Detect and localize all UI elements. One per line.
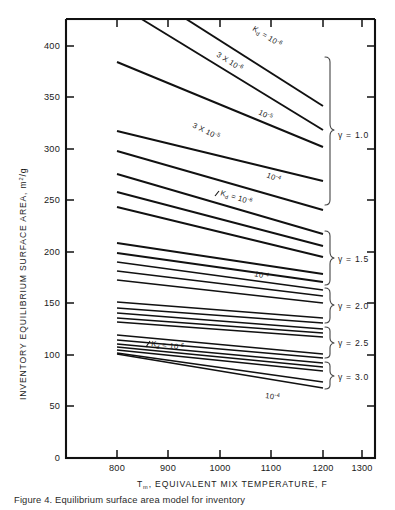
y-tick-50: 50 <box>49 401 60 411</box>
x-axis-ticks <box>117 19 362 458</box>
curve-g15-kd1e-4 <box>117 253 323 282</box>
curve-g25-kd1e-5 <box>117 322 323 337</box>
curve-g1-kd3e-5 <box>117 131 323 181</box>
label-10-4-upper: 10-4 <box>265 170 282 185</box>
y-tick-100: 100 <box>44 350 60 360</box>
plot-frame <box>66 19 375 458</box>
y-title-main: INVENTORY EQUILIBRIUM SURFACE AREA, m <box>18 180 28 400</box>
x-tick-1300: 1300 <box>351 463 372 473</box>
brace-gamma-2-5 <box>325 327 334 358</box>
curve-annotations: Kd = 10-6 3 X 10-6 10-5 3 X 10-5 10-4 Kd… <box>146 23 284 402</box>
x-tick-1000: 1000 <box>209 463 230 473</box>
curve-g2-kd1e-6 <box>117 262 323 290</box>
group-label-gamma-1-0: γ = 1.0 <box>338 130 369 140</box>
chart-plot: 0 50 100 150 200 250 300 350 400 <box>0 0 395 510</box>
y-tick-150: 150 <box>44 298 60 308</box>
x-tick-800: 800 <box>109 463 125 473</box>
x-tick-1100: 1100 <box>261 463 282 473</box>
y-axis-title: INVENTORY EQUILIBRIUM SURFACE AREA, m2/g <box>18 168 28 400</box>
x-tick-900: 900 <box>160 463 176 473</box>
curve-g15-kd1e-6 <box>117 174 323 234</box>
brace-gamma-2-0 <box>325 288 334 323</box>
curve-group-gamma-2-5 <box>117 313 323 358</box>
y-tick-200: 200 <box>44 247 60 257</box>
curve-group-gamma-2-0 <box>117 262 323 323</box>
curve-g15-kd1e-5 <box>117 207 323 257</box>
y-tick-350: 350 <box>44 92 60 102</box>
y-tick-300: 300 <box>44 144 60 154</box>
leader-kd-mid <box>215 191 219 196</box>
curve-group-gamma-1-0 <box>117 0 323 210</box>
y-axis-tick-labels: 0 50 100 150 200 250 300 350 400 <box>44 41 60 463</box>
y-tick-250: 250 <box>44 195 60 205</box>
y-title-tail: /g <box>18 168 28 177</box>
x-title-rest: , EQUIVALENT MIX TEMPERATURE, F <box>149 479 328 489</box>
group-label-gamma-3-0: γ = 3.0 <box>338 372 369 382</box>
y-tick-400: 400 <box>44 41 60 51</box>
top-clip-mask <box>0 0 395 19</box>
brace-gamma-3-0 <box>325 362 334 389</box>
y-axis-ticks <box>66 46 375 458</box>
y-tick-0: 0 <box>55 453 60 463</box>
figure-container: 0 50 100 150 200 250 300 350 400 <box>0 0 395 510</box>
svg-text:Tm, EQUIVALENT MIX TEMPERATURE: Tm, EQUIVALENT MIX TEMPERATURE, F <box>137 479 328 490</box>
x-axis-tick-labels: 800 900 1000 1100 1200 1300 <box>109 463 373 473</box>
label-10-4-mid: 10-4 <box>254 268 271 281</box>
curve-g1-kd1e-4 <box>117 151 323 210</box>
label-3x10-5: 3 X 10-5 <box>191 120 222 142</box>
curve-g3-kd1e-4 <box>117 354 323 388</box>
label-kd-top: Kd = 10-6 <box>250 23 284 50</box>
group-label-gamma-2-5: γ = 2.5 <box>338 338 369 348</box>
curve-g15-kd3e-6 <box>117 192 323 246</box>
x-tick-1200: 1200 <box>312 463 333 473</box>
brace-gamma-1-0 <box>325 57 334 205</box>
figure-caption: Figure 4. Equilibrium surface area model… <box>14 494 384 506</box>
group-label-gamma-2-0: γ = 2.0 <box>338 301 369 311</box>
x-axis-title: Tm, EQUIVALENT MIX TEMPERATURE, F <box>137 479 328 490</box>
brace-gamma-1-5 <box>325 231 334 285</box>
label-10-4-low: 10-4 <box>265 390 281 402</box>
curve-g25-kd1e-4 <box>117 340 323 358</box>
group-label-gamma-1-5: γ = 1.5 <box>338 254 369 264</box>
svg-text:INVENTORY EQUILIBRIUM SURFACE: INVENTORY EQUILIBRIUM SURFACE AREA, m2/g <box>18 168 28 400</box>
group-brackets: γ = 1.0 γ = 1.5 γ = 2.0 γ = 2.5 γ = 3.0 <box>325 57 369 389</box>
curve-g15-kd3e-5 <box>117 243 323 274</box>
